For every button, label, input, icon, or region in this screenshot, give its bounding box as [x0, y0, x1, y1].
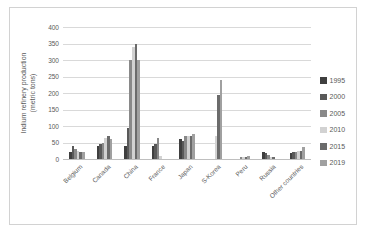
- legend-swatch-1995: [320, 77, 327, 84]
- x-label-other-countries: Other countries: [268, 163, 305, 200]
- bar-group-china: [118, 27, 146, 159]
- legend-swatch-2010: [320, 127, 327, 134]
- y-axis-title: Indium refinery production (metric tons): [20, 27, 37, 159]
- legend-item-2019: 2019: [320, 155, 345, 172]
- bar-group-s-korea: [201, 27, 229, 159]
- bar-group-peru: [228, 27, 256, 159]
- y-axis-title-line2: (metric tons): [29, 27, 38, 159]
- y-tick-350: 350: [45, 40, 59, 47]
- bar-china-2019: [137, 60, 140, 159]
- legend: 199520002005201020152019: [320, 72, 345, 171]
- legend-label-1995: 1995: [330, 77, 346, 84]
- legend-label-2005: 2005: [330, 110, 346, 117]
- legend-label-2019: 2019: [330, 159, 346, 166]
- legend-swatch-2000: [320, 94, 327, 101]
- bar-group-belgium: [63, 27, 91, 159]
- bar-other-countries-2019: [302, 147, 305, 159]
- legend-item-2005: 2005: [320, 105, 345, 122]
- bar-group-japan: [173, 27, 201, 159]
- bar-canada-2019: [110, 139, 113, 159]
- legend-item-2010: 2010: [320, 122, 345, 139]
- bar-group-russia: [256, 27, 284, 159]
- legend-item-2000: 2000: [320, 89, 345, 106]
- bar-group-other-countries: [284, 27, 312, 159]
- bar-group-france: [146, 27, 174, 159]
- y-axis-title-line1: Indium refinery production: [20, 27, 29, 159]
- y-tick-50: 50: [45, 139, 59, 146]
- bar-groups: [63, 27, 311, 159]
- legend-item-2015: 2015: [320, 138, 345, 155]
- bar-belgium-2019: [82, 152, 85, 159]
- legend-label-2015: 2015: [330, 143, 346, 150]
- y-tick-200: 200: [45, 90, 59, 97]
- legend-swatch-2015: [320, 143, 327, 150]
- legend-label-2010: 2010: [330, 126, 346, 133]
- plot-area: [63, 27, 311, 159]
- legend-label-2000: 2000: [330, 93, 346, 100]
- x-axis-line: [63, 159, 311, 160]
- y-tick-0: 0: [45, 156, 59, 163]
- y-tick-100: 100: [45, 123, 59, 130]
- y-tick-150: 150: [45, 106, 59, 113]
- legend-swatch-2005: [320, 110, 327, 117]
- legend-swatch-2019: [320, 160, 327, 167]
- y-tick-250: 250: [45, 73, 59, 80]
- chart-frame: Indium refinery production (metric tons)…: [9, 7, 357, 225]
- bar-group-canada: [91, 27, 119, 159]
- bar-s-korea-2019: [220, 80, 223, 159]
- y-tick-400: 400: [45, 24, 59, 31]
- bar-japan-2019: [192, 134, 195, 159]
- y-tick-300: 300: [45, 57, 59, 64]
- legend-item-1995: 1995: [320, 72, 345, 89]
- x-label-anchor-8: Other countries: [199, 163, 299, 173]
